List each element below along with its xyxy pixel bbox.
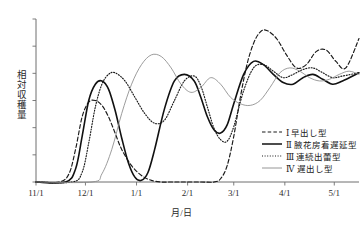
- legend-item: Ⅰ 早出し型: [262, 126, 357, 138]
- legend-item: Ⅳ 遅出し型: [262, 162, 357, 174]
- legend-label-2: Ⅱ 腋花房着遅延型: [286, 138, 357, 150]
- x-tick-label: 11/1: [19, 188, 53, 198]
- legend-key-thin-solid: [262, 163, 282, 173]
- legend-key-solid: [262, 139, 282, 149]
- x-tick-label: 3/1: [217, 188, 251, 198]
- y-axis-title: 相対収穫量: [8, 70, 26, 120]
- x-tick-label: 1/1: [120, 188, 154, 198]
- legend-label-3: Ⅲ 連続出蕾型: [286, 150, 341, 162]
- chart-figure: 相対収穫量 月/日 Ⅰ 早出し型 Ⅱ 腋花房着遅延型 Ⅲ 連続出蕾型 Ⅳ 遅: [0, 0, 363, 231]
- legend-item: Ⅲ 連続出蕾型: [262, 150, 357, 162]
- legend-item: Ⅱ 腋花房着遅延型: [262, 138, 357, 150]
- chart-legend: Ⅰ 早出し型 Ⅱ 腋花房着遅延型 Ⅲ 連続出蕾型 Ⅳ 遅出し型: [262, 126, 357, 174]
- x-axis-title: 月/日: [0, 206, 363, 219]
- x-tick-label: 12/1: [68, 188, 102, 198]
- legend-key-dashed: [262, 127, 282, 137]
- x-tick-label: 4/1: [268, 188, 302, 198]
- legend-label-1: Ⅰ 早出し型: [286, 126, 327, 138]
- x-tick-label: 2/1: [171, 188, 205, 198]
- legend-label-4: Ⅳ 遅出し型: [286, 162, 333, 174]
- legend-key-dotted: [262, 151, 282, 161]
- x-tick-label: 5/1: [317, 188, 351, 198]
